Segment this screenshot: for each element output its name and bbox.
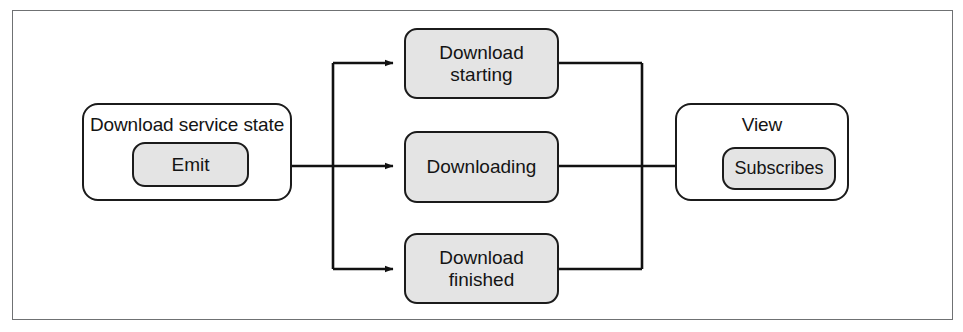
node-download-finished-label: Download finished bbox=[435, 247, 528, 290]
node-downloading-label: Downloading bbox=[423, 156, 541, 177]
node-download-finished-line1: Download bbox=[439, 247, 524, 268]
node-download-starting-label: Download starting bbox=[435, 42, 528, 85]
node-view-title: View bbox=[677, 114, 847, 135]
node-download-starting-line2: starting bbox=[450, 64, 512, 85]
node-emit[interactable]: Emit bbox=[132, 142, 249, 187]
node-download-starting[interactable]: Download starting bbox=[404, 28, 559, 99]
node-download-finished-line2: finished bbox=[449, 269, 515, 290]
diagram-canvas: Download service state Emit Download sta… bbox=[0, 0, 963, 332]
node-download-starting-line1: Download bbox=[439, 42, 524, 63]
node-download-service-state-title: Download service state bbox=[84, 114, 290, 135]
node-subscribes[interactable]: Subscribes bbox=[722, 147, 836, 190]
node-emit-label: Emit bbox=[168, 154, 214, 175]
node-downloading[interactable]: Downloading bbox=[404, 131, 559, 203]
node-subscribes-label: Subscribes bbox=[730, 158, 827, 178]
node-download-finished[interactable]: Download finished bbox=[404, 233, 559, 304]
